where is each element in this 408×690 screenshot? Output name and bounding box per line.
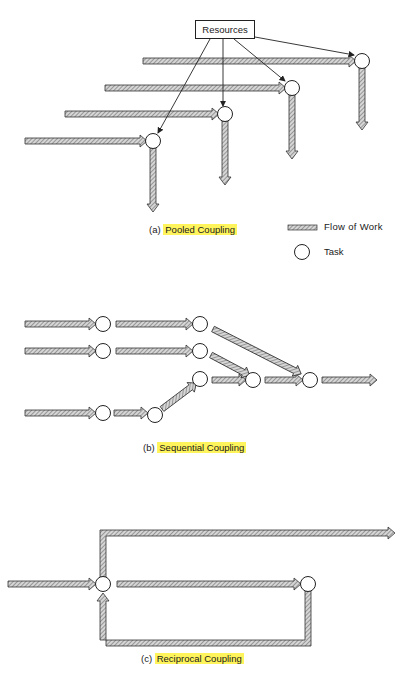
flow-arrow <box>210 324 304 380</box>
task-node <box>96 317 111 332</box>
flow-arrow <box>147 148 159 212</box>
task-node <box>193 344 208 359</box>
task-node <box>96 344 111 359</box>
resource-line <box>255 37 354 55</box>
flow-arrow <box>8 578 96 590</box>
flow-arrow <box>143 55 356 67</box>
flow-arrow <box>116 318 193 330</box>
legend-task: Task <box>324 246 344 257</box>
flow-arrow <box>117 578 301 590</box>
reciprocal-coupling-diagram <box>8 527 395 646</box>
flow-arrow <box>65 108 219 120</box>
pooled-coupling-diagram <box>25 37 370 212</box>
flow-arrow <box>100 527 395 577</box>
task-legend-icon <box>295 245 310 260</box>
pooled-title: Pooled Coupling <box>163 224 237 235</box>
task-node <box>246 373 261 388</box>
flow-arrow <box>25 407 96 419</box>
task-node <box>301 577 316 592</box>
pooled-caption: (a) Pooled Coupling <box>149 224 237 235</box>
flow-arrow <box>114 407 148 419</box>
task-node <box>193 317 208 332</box>
task-node <box>96 577 111 592</box>
flow-arrow <box>25 318 96 330</box>
task-node <box>96 406 111 421</box>
flow-arrow <box>116 345 193 357</box>
flow-arrow <box>97 591 311 646</box>
flow-arrow <box>105 82 286 94</box>
legend-flow-of-work: Flow of Work <box>324 221 383 232</box>
reciprocal-title: Reciprocal Coupling <box>155 653 244 664</box>
resources-box: Resources <box>195 20 255 39</box>
task-node <box>148 408 163 423</box>
flow-arrow <box>219 121 231 185</box>
sequential-caption: (b) Sequential Coupling <box>143 442 246 453</box>
flow-arrow <box>25 345 96 357</box>
task-node <box>146 134 161 149</box>
coupling-diagram <box>0 0 408 690</box>
task-node <box>303 373 318 388</box>
task-node <box>193 372 208 387</box>
sequential-title: Sequential Coupling <box>157 442 246 453</box>
flow-arrow <box>25 135 147 147</box>
task-node <box>285 81 300 96</box>
flow-arrow <box>265 374 303 386</box>
reciprocal-caption: (c) Reciprocal Coupling <box>141 653 244 664</box>
flow-arrow <box>212 374 246 386</box>
flow-arrow <box>286 95 298 159</box>
sequential-coupling-diagram <box>25 317 377 423</box>
task-node <box>218 107 233 122</box>
flow-arrow <box>322 374 377 386</box>
legend <box>288 225 317 260</box>
flow-of-work-legend-icon <box>288 225 317 230</box>
flow-arrow <box>356 68 368 130</box>
resources-label: Resources <box>202 24 247 35</box>
task-node <box>355 54 370 69</box>
